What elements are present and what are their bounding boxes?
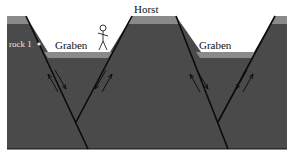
graben-left-surface <box>44 52 112 58</box>
central-horst-surface <box>127 16 181 24</box>
graben-right-surface <box>196 52 256 58</box>
rock-marker-icon <box>37 42 40 45</box>
rock-body <box>7 16 287 149</box>
horst-label: Horst <box>134 3 158 15</box>
horst-graben-diagram: Horst Graben Graben rock 1 <box>0 0 289 153</box>
graben-left-label: Graben <box>55 39 88 51</box>
graben-right-label: Graben <box>199 39 232 51</box>
rock-label: rock 1 <box>9 39 32 49</box>
stick-figure-icon <box>98 25 108 50</box>
